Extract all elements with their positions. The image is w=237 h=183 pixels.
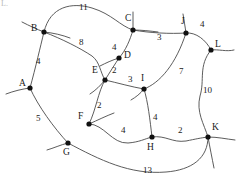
node-label-k: K xyxy=(212,123,219,133)
node-a[interactable] xyxy=(27,85,32,90)
node-label-i: I xyxy=(141,74,144,84)
node-h[interactable] xyxy=(149,134,154,139)
node-l[interactable] xyxy=(208,47,213,52)
node-g[interactable] xyxy=(65,140,70,145)
stub-l-right xyxy=(211,50,234,51)
stub-a-left xyxy=(6,88,30,94)
edge-e-i xyxy=(105,80,144,89)
edge-weight-c-j: 3 xyxy=(157,33,162,42)
edge-weight-i-j: 7 xyxy=(179,67,184,76)
node-label-e: E xyxy=(92,66,98,76)
edge-weight-f-h: 4 xyxy=(121,126,126,135)
edge-weight-g-k: 13 xyxy=(143,166,152,175)
edge-weight-b-c: 11 xyxy=(79,3,88,12)
edge-weight-i-h: 4 xyxy=(153,113,158,122)
node-label-l: L xyxy=(215,40,221,50)
edge-weight-c-d: 4 xyxy=(112,43,117,52)
node-i[interactable] xyxy=(141,86,146,91)
node-b[interactable] xyxy=(41,29,46,34)
node-label-b: B xyxy=(31,24,37,34)
node-label-f: F xyxy=(78,112,83,122)
edge-j-l xyxy=(186,33,211,50)
edge-i-h xyxy=(144,89,152,137)
node-label-g: G xyxy=(63,148,70,158)
stub-e-down xyxy=(90,80,105,94)
node-j[interactable] xyxy=(183,30,188,35)
edge-weight-a-b: 4 xyxy=(36,57,41,66)
edge-i-j xyxy=(144,33,186,89)
node-d[interactable] xyxy=(116,55,121,60)
edge-weight-h-k: 2 xyxy=(178,126,183,135)
edge-g-k xyxy=(68,137,208,172)
edge-weight-j-l: 4 xyxy=(200,20,205,29)
edge-weight-e-f: 2 xyxy=(97,101,102,110)
edge-b-c xyxy=(44,6,133,32)
stub-k-right xyxy=(208,137,235,140)
edge-weight-b-e: 8 xyxy=(79,38,84,47)
edge-weight-d-e: 2 xyxy=(112,66,117,75)
edge-weight-e-i: 3 xyxy=(128,75,133,84)
edge-h-k xyxy=(152,137,208,142)
node-label-j: J xyxy=(181,17,185,27)
node-label-a: A xyxy=(19,79,26,89)
node-c[interactable] xyxy=(130,27,135,32)
graph-diagram-canvas: L. 1184543232442741013 ABCDEFGHIJKL xyxy=(0,0,237,183)
stub-k-down xyxy=(208,137,214,168)
node-e[interactable] xyxy=(102,77,107,82)
node-label-h: H xyxy=(147,143,154,153)
node-label-d: D xyxy=(124,51,131,61)
node-k[interactable] xyxy=(205,134,210,139)
edge-weight-l-k: 10 xyxy=(203,86,212,95)
edge-layer xyxy=(30,6,211,173)
node-label-c: C xyxy=(125,14,131,24)
stub-layer xyxy=(6,12,235,168)
node-f[interactable] xyxy=(86,121,91,126)
edge-weight-a-g: 5 xyxy=(36,114,41,123)
